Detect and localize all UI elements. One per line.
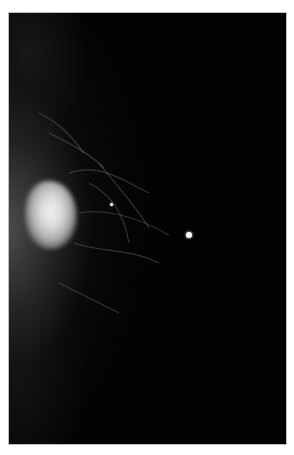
calcification-large bbox=[186, 232, 192, 238]
calcification-small bbox=[110, 203, 113, 206]
mammogram-image bbox=[8, 12, 287, 445]
dense-mass bbox=[25, 181, 77, 249]
